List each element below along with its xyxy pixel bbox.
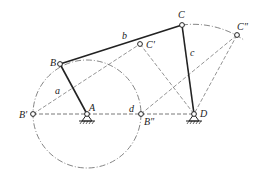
label-link-d: d [129, 103, 135, 114]
link-b [60, 25, 182, 64]
label-c: C [178, 9, 185, 20]
rocker-arc [182, 24, 244, 40]
label-b1: B' [19, 109, 28, 120]
joint-b1 [31, 112, 36, 117]
joint-b [58, 62, 63, 67]
joint-b2 [139, 112, 144, 117]
link-c [182, 25, 194, 114]
label-c2: C" [237, 21, 249, 32]
linkage-diagram: B A C D B' B" C' C" a b c d [0, 0, 263, 184]
joint-d [192, 112, 197, 117]
line-b1-c1 [33, 44, 140, 114]
label-link-a: a [55, 85, 60, 96]
label-c1: C' [146, 39, 156, 50]
label-link-b: b [122, 30, 127, 41]
linkage-svg: B A C D B' B" C' C" a b c d [0, 0, 263, 184]
label-b: B [50, 57, 56, 68]
line-c2-d [194, 35, 237, 114]
link-a [60, 64, 87, 114]
label-link-c: c [190, 47, 195, 58]
label-b2: B" [144, 116, 155, 127]
label-d: D [199, 108, 208, 119]
label-a: A [88, 102, 96, 113]
joint-c1 [138, 42, 143, 47]
joint-c2 [235, 33, 240, 38]
joint-c [180, 23, 185, 28]
